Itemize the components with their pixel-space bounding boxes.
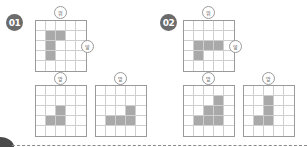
grid-cell	[184, 51, 194, 61]
grid-cell	[214, 21, 224, 31]
shaded-cell	[56, 106, 66, 116]
side-label: 옆	[229, 40, 242, 53]
grid-cell	[284, 126, 294, 136]
grid-cell	[204, 96, 214, 106]
grid-cell	[244, 126, 254, 136]
grid-cell	[106, 86, 116, 96]
option-b-label: 앞	[262, 72, 275, 85]
grid-cell	[224, 106, 234, 116]
dashed-divider	[12, 145, 307, 146]
grid-cell	[126, 86, 136, 96]
grid-cell	[224, 116, 234, 126]
grid-cell	[66, 96, 76, 106]
shaded-cell	[254, 116, 264, 126]
shaded-cell	[46, 51, 56, 61]
grid-cell	[36, 61, 46, 71]
grid-cell	[254, 126, 264, 136]
option-a-grid[interactable]	[183, 85, 235, 137]
grid-cell	[66, 21, 76, 31]
grid-cell	[224, 21, 234, 31]
grid-cell	[284, 116, 294, 126]
option-a-label: 앞	[54, 72, 67, 85]
grid-cell	[284, 106, 294, 116]
grid-cell	[96, 106, 106, 116]
grid-cell	[184, 31, 194, 41]
shaded-cell	[46, 41, 56, 51]
grid-cell	[244, 106, 254, 116]
grid-cell	[214, 126, 224, 136]
grid-cell	[116, 96, 126, 106]
grid-cell	[214, 61, 224, 71]
shaded-cell	[56, 31, 66, 41]
grid-cell	[66, 41, 76, 51]
grid-cell	[76, 21, 86, 31]
grid-cell	[244, 96, 254, 106]
grid-cell	[106, 126, 116, 136]
grid-cell	[56, 61, 66, 71]
grid-cell	[36, 51, 46, 61]
grid-cell	[66, 31, 76, 41]
top-view-label: 위	[54, 6, 67, 19]
grid-cell	[46, 126, 56, 136]
top-view-grid	[183, 20, 235, 72]
option-a-label: 앞	[202, 72, 215, 85]
shaded-cell	[56, 116, 66, 126]
shaded-cell	[214, 106, 224, 116]
grid-cell	[36, 21, 46, 31]
grid-cell	[184, 106, 194, 116]
grid-cell	[66, 86, 76, 96]
shaded-cell	[116, 116, 126, 126]
grid-cell	[264, 86, 274, 96]
top-view-label: 위	[202, 6, 215, 19]
grid-cell	[194, 31, 204, 41]
option-a-grid[interactable]	[35, 85, 87, 137]
grid-cell	[194, 106, 204, 116]
grid-cell	[76, 126, 86, 136]
grid-cell	[274, 96, 284, 106]
grid-cell	[274, 86, 284, 96]
grid-cell	[214, 86, 224, 96]
grid-cell	[136, 96, 146, 106]
shaded-cell	[214, 96, 224, 106]
grid-cell	[66, 61, 76, 71]
grid-cell	[184, 21, 194, 31]
grid-cell	[46, 96, 56, 106]
grid-cell	[56, 126, 66, 136]
grid-cell	[136, 106, 146, 116]
grid-cell	[254, 86, 264, 96]
grid-cell	[204, 21, 214, 31]
shaded-cell	[264, 116, 274, 126]
option-b-grid[interactable]	[95, 85, 147, 137]
grid-cell	[36, 126, 46, 136]
shaded-cell	[46, 116, 56, 126]
grid-cell	[194, 86, 204, 96]
shaded-cell	[204, 116, 214, 126]
grid-cell	[136, 126, 146, 136]
option-b-grid[interactable]	[243, 85, 295, 137]
grid-cell	[264, 126, 274, 136]
grid-cell	[274, 126, 284, 136]
grid-cell	[56, 51, 66, 61]
grid-cell	[136, 86, 146, 96]
grid-cell	[136, 116, 146, 126]
grid-cell	[36, 31, 46, 41]
grid-cell	[36, 116, 46, 126]
shaded-cell	[194, 51, 204, 61]
grid-cell	[96, 126, 106, 136]
grid-cell	[116, 86, 126, 96]
grid-cell	[214, 51, 224, 61]
grid-cell	[76, 96, 86, 106]
grid-cell	[116, 126, 126, 136]
shaded-cell	[194, 116, 204, 126]
grid-cell	[214, 31, 224, 41]
shaded-cell	[46, 31, 56, 41]
grid-cell	[66, 116, 76, 126]
grid-cell	[106, 96, 116, 106]
grid-cell	[106, 106, 116, 116]
grid-cell	[76, 86, 86, 96]
grid-cell	[274, 116, 284, 126]
grid-cell	[76, 61, 86, 71]
grid-cell	[184, 126, 194, 136]
grid-cell	[66, 106, 76, 116]
grid-cell	[184, 96, 194, 106]
